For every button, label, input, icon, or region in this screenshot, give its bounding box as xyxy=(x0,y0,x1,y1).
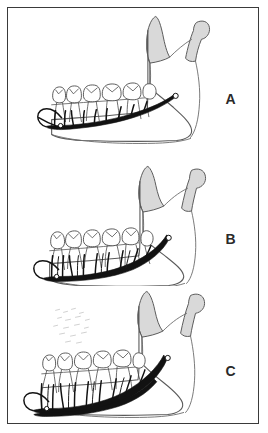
panel-label-b: B xyxy=(225,232,236,246)
tooth-crown xyxy=(113,350,131,367)
tooth-crown xyxy=(102,84,121,101)
panel-c: C xyxy=(8,282,258,425)
coronoid-process-a xyxy=(147,16,170,63)
panel-a: A xyxy=(8,8,258,148)
tooth-crown xyxy=(53,87,66,103)
tooth-crown xyxy=(93,351,111,368)
tooth-crown xyxy=(83,230,100,247)
stipple-shading-c xyxy=(54,308,90,343)
tooth-crown xyxy=(58,353,73,370)
condyle-b xyxy=(182,169,206,211)
tooth-crown xyxy=(141,231,153,246)
tooth-crown xyxy=(102,229,120,246)
tooth-crown xyxy=(51,232,65,249)
mental-foramen-a xyxy=(58,123,62,127)
tooth-crown xyxy=(133,353,145,368)
mandibular-foramen-c xyxy=(165,355,170,360)
mandibular-foramen-a xyxy=(173,93,178,98)
coronoid-process-c xyxy=(138,291,163,337)
tooth-crown xyxy=(83,85,100,102)
tooth-crown xyxy=(143,84,156,99)
panel-label-c: C xyxy=(225,364,236,378)
mental-foramen-c xyxy=(45,406,49,410)
ramus-posterior-border-c xyxy=(186,336,195,412)
figure-border-frame: A xyxy=(7,7,259,424)
tooth-crown xyxy=(122,228,139,245)
mandibular-foramen-b xyxy=(166,235,171,240)
mandible-diagram-c xyxy=(8,282,258,425)
panel-label-a: A xyxy=(225,92,236,106)
alveolar-crest-c xyxy=(42,367,138,374)
mandible-diagram-b xyxy=(8,146,258,286)
panel-b: B xyxy=(8,146,258,286)
figure-root: A xyxy=(0,0,268,433)
tooth-crown xyxy=(43,355,56,371)
condyle-c xyxy=(181,294,205,336)
tooth-crown xyxy=(67,86,82,103)
ramus-posterior-border-b xyxy=(187,211,196,283)
tooth-crown xyxy=(123,83,141,100)
coronoid-process-b xyxy=(139,166,164,212)
ramus-posterior-border-a xyxy=(191,61,200,137)
tooth-crown xyxy=(74,352,91,369)
mental-foramen-b xyxy=(54,274,58,278)
mandible-diagram-a xyxy=(8,8,258,148)
